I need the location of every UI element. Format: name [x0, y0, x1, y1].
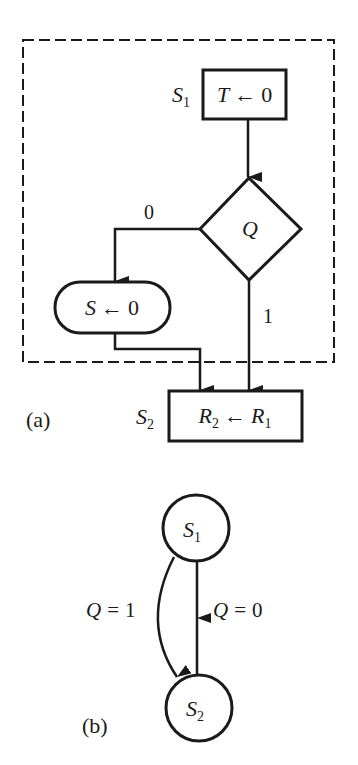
edge-q1-transition: [158, 557, 177, 677]
state-box-r-transfer: R2←R1: [169, 391, 302, 441]
branch-0-label: 0: [144, 201, 154, 223]
asm-chart-diagram: S1 T←0 Q 0 S←0 1: [0, 0, 358, 765]
svg-text:R2←R1: R2←R1: [198, 403, 272, 431]
state-node-s2: S2: [166, 675, 232, 741]
edge-q0-label: Q=0: [213, 598, 263, 622]
state-label-s2: S2: [136, 404, 154, 432]
figure-b: S1 Q=1 Q=0 S2 (b): [82, 495, 263, 741]
edge-q1-label: Q=1: [86, 598, 136, 622]
decision-diamond-q: Q: [200, 178, 301, 280]
state-box-t-assign: T←0: [203, 70, 286, 119]
branch-1-label: 1: [263, 305, 273, 327]
caption-b: (b): [82, 713, 108, 738]
state-node-s1: S1: [163, 495, 229, 561]
svg-text:Q: Q: [242, 216, 258, 241]
branch-0-path: [115, 229, 200, 281]
svg-text:T←0: T←0: [217, 82, 272, 107]
state-label-s1: S1: [172, 82, 190, 110]
svg-text:S←0: S←0: [85, 295, 139, 320]
caption-a: (a): [26, 407, 50, 432]
conditional-box-s-assign: S←0: [55, 282, 170, 333]
figure-a: S1 T←0 Q 0 S←0 1: [23, 40, 334, 441]
